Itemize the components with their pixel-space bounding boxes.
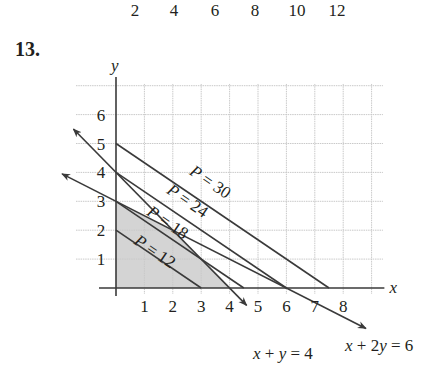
x-tick-label: 6 (282, 297, 291, 316)
x-tick-label: 3 (197, 297, 206, 316)
constraint-line (62, 174, 366, 329)
x-axis-label: x (388, 278, 397, 297)
x-tick-label: 8 (339, 297, 348, 316)
x-tick-label: 2 (169, 297, 178, 316)
constraint-line-label: x + y = 4 (252, 344, 313, 363)
constraint-lines (62, 129, 366, 328)
y-tick-label: 5 (97, 135, 106, 154)
y-tick-label: 4 (97, 163, 106, 182)
y-tick-label: 6 (97, 106, 106, 125)
linear-programming-graph: 12345678123456xyP = 12P = 18P = 24P = 30… (0, 0, 441, 370)
x-tick-label: 7 (311, 297, 320, 316)
x-tick-label: 4 (225, 297, 234, 316)
y-axis-label: y (109, 56, 119, 75)
y-tick-label: 3 (97, 192, 106, 211)
x-tick-label: 1 (140, 297, 149, 316)
y-tick-label: 1 (97, 250, 106, 269)
constraint-line-label: x + 2y = 6 (344, 336, 413, 355)
y-tick-label: 2 (97, 221, 106, 240)
x-tick-label: 5 (254, 297, 263, 316)
